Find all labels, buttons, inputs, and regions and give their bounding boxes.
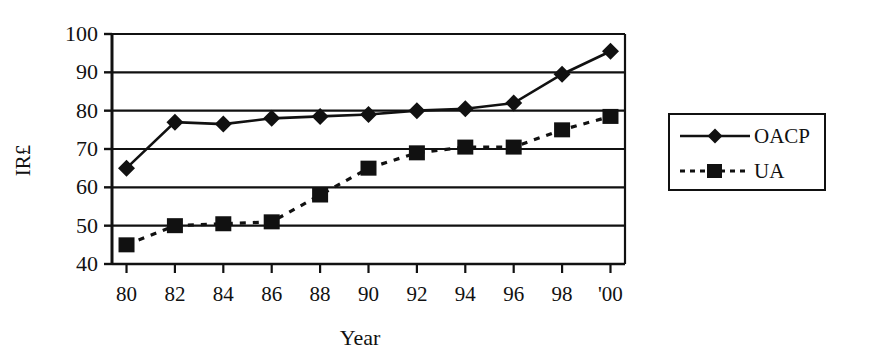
- marker-diamond-oacp: [554, 66, 571, 83]
- x-axis-tick-marks: [127, 264, 611, 273]
- marker-square-ua: [264, 214, 280, 229]
- marker-diamond-oacp: [408, 102, 425, 119]
- y-axis-title-wrapper: IR£: [8, 128, 38, 198]
- y-tick-label: 80: [52, 100, 98, 122]
- marker-square-ua: [506, 140, 522, 155]
- x-tick-label: 82: [153, 284, 197, 305]
- x-tick-label: '00: [588, 284, 632, 305]
- x-tick-label: 98: [540, 284, 584, 305]
- marker-diamond-oacp: [215, 116, 232, 133]
- x-tick-label: 88: [298, 284, 342, 305]
- x-axis-title: Year: [285, 327, 435, 349]
- marker-square-ua: [361, 161, 377, 176]
- line-chart-figure: 405060708090100 80828486889092949698'00 …: [0, 0, 882, 362]
- legend-swatch-ua-dashed-square: [678, 156, 752, 186]
- marker-square-ua: [409, 145, 425, 160]
- marker-diamond-oacp: [505, 95, 522, 112]
- x-tick-label: 86: [250, 284, 294, 305]
- marker-diamond-oacp: [263, 110, 280, 127]
- x-tick-label: 90: [347, 284, 391, 305]
- x-tick-label: 84: [201, 284, 245, 305]
- legend-label-oacp: OACP: [754, 124, 810, 148]
- x-tick-label: 94: [443, 284, 487, 305]
- marker-diamond-oacp: [457, 100, 474, 117]
- gridlines: [112, 34, 625, 264]
- marker-square-ua: [167, 218, 183, 233]
- y-axis-title: IR£: [13, 128, 34, 194]
- y-tick-label: 70: [52, 138, 98, 160]
- legend-entry-oacp: OACP: [670, 121, 828, 151]
- legend-entry-ua: UA: [670, 156, 828, 186]
- chart-page: 405060708090100 80828486889092949698'00 …: [0, 0, 882, 362]
- marker-square-ua: [457, 140, 473, 155]
- marker-diamond-oacp: [360, 106, 377, 123]
- legend-swatch-oacp-line-diamond: [678, 121, 752, 151]
- x-tick-label: 96: [492, 284, 536, 305]
- marker-square-ua: [119, 237, 135, 252]
- y-tick-label: 60: [52, 176, 98, 198]
- y-tick-label: 40: [52, 253, 98, 275]
- marker-square-ua: [312, 188, 328, 203]
- y-tick-label: 90: [52, 61, 98, 83]
- x-tick-label: 80: [105, 284, 149, 305]
- chart-legend: OACP UA: [668, 113, 826, 191]
- y-tick-label: 100: [52, 23, 98, 45]
- legend-label-ua: UA: [754, 159, 784, 183]
- marker-diamond-oacp: [602, 43, 619, 60]
- marker-square-ua: [554, 122, 570, 137]
- x-tick-label: 92: [395, 284, 439, 305]
- marker-square-ua: [215, 216, 231, 231]
- y-tick-label: 50: [52, 215, 98, 237]
- marker-square-ua: [602, 109, 618, 124]
- data-series-layer: [118, 43, 619, 253]
